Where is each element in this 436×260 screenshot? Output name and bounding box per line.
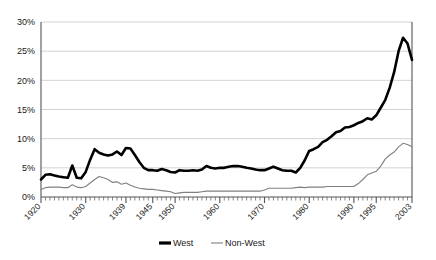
y-axis-tick-label: 5% bbox=[22, 163, 35, 173]
chart-background bbox=[0, 0, 436, 260]
y-axis-tick-label: 30% bbox=[17, 17, 35, 27]
legend-label-non-west: Non-West bbox=[225, 238, 265, 248]
y-axis-tick-label: 20% bbox=[17, 76, 35, 86]
y-axis-tick-label: 10% bbox=[17, 134, 35, 144]
y-axis-tick-label: 15% bbox=[17, 105, 35, 115]
legend-label-west: West bbox=[173, 238, 194, 248]
y-axis-tick-label: 25% bbox=[17, 46, 35, 56]
chart-container: 0%5%10%15%20%25%30% 19201930193919451950… bbox=[0, 0, 436, 260]
y-axis-tick-label: 0% bbox=[22, 192, 35, 202]
line-chart: 0%5%10%15%20%25%30% 19201930193919451950… bbox=[0, 0, 436, 260]
